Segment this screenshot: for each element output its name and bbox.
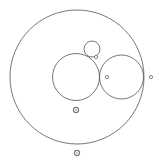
small-top-circle bbox=[84, 41, 100, 57]
point-below-outer-icon bbox=[74, 150, 79, 155]
point-right-inner-center-icon bbox=[105, 75, 108, 78]
point-tangent-small-icon bbox=[94, 55, 97, 58]
point-below-left-circle-icon bbox=[73, 107, 78, 112]
left-inner-circle bbox=[53, 54, 100, 101]
point-outer-right-icon bbox=[149, 75, 152, 78]
circles-layer bbox=[10, 10, 144, 144]
points-layer bbox=[73, 55, 152, 155]
outer-circle bbox=[10, 10, 144, 144]
geometry-diagram bbox=[0, 0, 159, 161]
